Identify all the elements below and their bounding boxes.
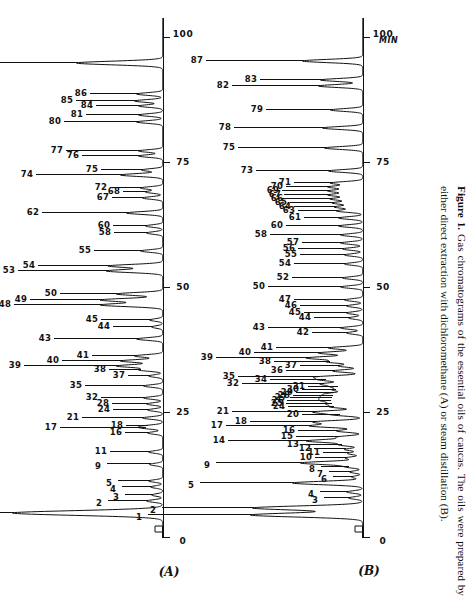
peak-leader-line	[321, 466, 349, 467]
peak-leader-line	[315, 457, 347, 458]
peak-number: 81	[71, 109, 83, 119]
peak-leader-line	[162, 507, 254, 508]
axis-tick	[163, 537, 170, 538]
axis-tick-label: 25	[376, 407, 390, 417]
peak-number: 75	[223, 142, 235, 152]
peak-leader-line	[294, 299, 346, 300]
peak-number: 4	[308, 489, 314, 499]
peak-leader-line	[60, 427, 146, 428]
peak-leader-line	[216, 357, 308, 358]
peak-leader-line	[300, 254, 346, 255]
axis-tick-label: 25	[176, 407, 190, 417]
figure-caption-text: Gas chromatograms of the essential oils …	[439, 186, 468, 596]
peak-number: 1	[136, 512, 142, 522]
peak-leader-line	[250, 421, 316, 422]
peak-number: 16	[283, 425, 295, 435]
peak-number: 77	[51, 145, 63, 155]
peak-number: 43	[253, 322, 265, 332]
peak-number: 71	[279, 177, 291, 187]
peak-leader-line	[296, 393, 334, 394]
peak-number: 47	[279, 294, 291, 304]
axis-tick	[163, 162, 170, 163]
peak-number: 41	[77, 350, 89, 360]
peak-number: 2	[96, 498, 102, 508]
peak-number: 80	[49, 116, 61, 126]
peak-number: 2	[150, 505, 156, 515]
peak-leader-line	[113, 409, 149, 410]
peak-number: 43	[39, 333, 51, 343]
peak-leader-line	[66, 150, 140, 151]
peak-number: 75	[86, 164, 98, 174]
peak-leader-line	[62, 360, 122, 361]
peak-leader-line	[216, 462, 302, 463]
figure-stage: (A) 0255075100 1234591116181721242832353…	[0, 0, 476, 614]
peak-leader-line	[286, 370, 334, 371]
peak-number: 5	[188, 480, 194, 490]
peak-leader-line	[148, 514, 252, 515]
axis-tick	[363, 37, 370, 38]
peak-leader-line	[60, 293, 118, 294]
peak-leader-line	[42, 212, 128, 213]
peak-number: 50	[45, 288, 57, 298]
axis-tick	[363, 412, 370, 413]
peak-number: 54	[23, 260, 35, 270]
peak-number: 74	[21, 169, 33, 179]
peak-number: 76	[67, 150, 79, 160]
peak-number: 54	[279, 258, 291, 268]
peak-leader-line	[82, 417, 144, 418]
axis-tick	[363, 537, 370, 538]
peak-leader-line	[96, 105, 140, 106]
peak-leader-line	[110, 451, 150, 452]
peak-number: 53	[3, 265, 15, 275]
peak-leader-line	[323, 453, 349, 454]
peak-number: 87	[191, 55, 203, 65]
peak-leader-line	[296, 436, 340, 437]
peak-number: 18	[111, 420, 123, 430]
peak-leader-line	[324, 497, 350, 498]
peak-leader-line	[268, 286, 342, 287]
peak-leader-line	[123, 191, 147, 192]
peak-number: 83	[245, 74, 257, 84]
peak-leader-line	[238, 376, 320, 377]
peak-leader-line	[294, 182, 332, 183]
axis-tick-label: 0	[380, 536, 387, 546]
peak-number: 35	[70, 380, 82, 390]
peak-leader-line	[254, 352, 320, 353]
peak-leader-line	[302, 242, 342, 243]
peak-number: 85	[61, 95, 73, 105]
peak-leader-line	[200, 482, 294, 483]
axis-tick	[163, 287, 170, 288]
peak-leader-line	[276, 347, 330, 348]
peak-leader-line	[298, 210, 338, 211]
peak-number: 35	[223, 371, 235, 381]
peak-leader-line	[18, 270, 108, 271]
peak-leader-line	[298, 248, 344, 249]
peak-leader-line	[107, 464, 151, 465]
peak-leader-line	[304, 312, 348, 313]
peak-number: 84	[81, 100, 93, 110]
peak-leader-line	[101, 397, 145, 398]
peak-leader-line	[122, 486, 152, 487]
peak-leader-line	[82, 155, 140, 156]
chromatogram-panel-a: (A) 0255075100 1234591116181721242832353…	[0, 0, 186, 584]
peak-leader-line	[286, 186, 330, 187]
peak-number: 44	[98, 321, 110, 331]
peak-leader-line	[14, 304, 102, 305]
peak-leader-line	[284, 194, 330, 195]
peak-leader-line	[206, 60, 304, 61]
peak-number: 57	[287, 237, 299, 247]
peak-leader-line	[298, 430, 338, 431]
peak-leader-line	[113, 225, 147, 226]
peak-leader-line	[282, 190, 330, 191]
peak-number: 9	[95, 461, 101, 471]
peak-number: 73	[241, 165, 253, 175]
figure-caption: Figure 1. Gas chromatograms of the essen…	[436, 186, 470, 596]
peak-number: 42	[297, 327, 309, 337]
peak-number: 49	[15, 294, 27, 304]
panel-b-plot: 0255075100 12345678910111213141516171820…	[200, 18, 386, 538]
peak-number: 39	[9, 360, 21, 370]
peak-leader-line	[293, 395, 333, 396]
peak-number: 58	[255, 229, 267, 239]
peak-number: 36	[271, 365, 283, 375]
peak-leader-line	[101, 319, 151, 320]
